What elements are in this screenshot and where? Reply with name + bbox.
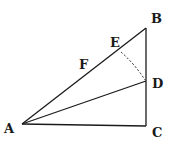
label-c: C [152, 125, 162, 140]
geometry-diagram: A B C D E F [0, 0, 174, 152]
label-e: E [110, 35, 120, 50]
label-f: F [79, 57, 89, 72]
label-b: B [151, 11, 162, 26]
label-d: D [152, 76, 163, 91]
label-a: A [3, 121, 15, 136]
segment-ad [22, 81, 146, 124]
segment-ab [22, 28, 146, 124]
arc-de [121, 52, 145, 80]
segment-ca [22, 124, 146, 126]
diagram-canvas: A B C D E F [0, 0, 174, 152]
